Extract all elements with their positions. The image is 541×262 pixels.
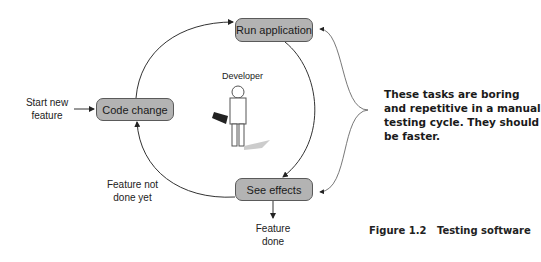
- start-new-feature-label: Start new feature: [22, 96, 72, 122]
- note-line4: be faster.: [384, 129, 541, 143]
- run-application-node: Run application: [235, 18, 313, 42]
- developer-label: Developer: [222, 70, 263, 83]
- feature-not-done-label: Feature not done yet: [100, 178, 165, 204]
- see-effects-node: See effects: [235, 178, 313, 201]
- feature-not-done-line1: Feature not: [100, 178, 165, 191]
- feature-done-line1: Feature: [250, 222, 296, 235]
- code-change-node: Code change: [96, 98, 174, 121]
- start-new-feature-line1: Start new: [22, 96, 72, 109]
- figure-caption: Figure 1.2 Testing software manually bec…: [369, 198, 541, 262]
- feature-done-line2: done: [250, 235, 296, 248]
- annotation-note: These tasks are boring and repetitive in…: [384, 87, 541, 143]
- start-new-feature-line2: feature: [22, 109, 72, 122]
- note-line1: These tasks are boring: [384, 87, 541, 101]
- caption-line1: Figure 1.2 Testing software: [369, 224, 541, 237]
- feature-done-label: Feature done: [250, 222, 296, 248]
- feature-not-done-line2: done yet: [100, 191, 165, 204]
- note-line2: and repetitive in a manual: [384, 101, 541, 115]
- note-line3: testing cycle. They should: [384, 115, 541, 129]
